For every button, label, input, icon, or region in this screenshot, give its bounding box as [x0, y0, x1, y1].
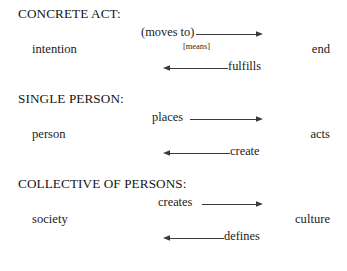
forward-arrow-icon	[0, 196, 347, 212]
forward-relation-row: creates	[0, 196, 347, 212]
forward-arrow-icon	[0, 26, 347, 42]
terms-row: society culture	[0, 212, 347, 230]
right-term: end	[312, 42, 330, 57]
terms-row: intention end	[0, 42, 347, 60]
backward-relation-label: defines	[224, 229, 260, 244]
backward-relation-row: defines	[0, 230, 347, 246]
means-annotation: [means]	[183, 42, 210, 51]
backward-arrow-icon	[0, 230, 347, 246]
backward-arrow-icon	[0, 60, 347, 76]
section-heading: COLLECTIVE OF PERSONS:	[18, 176, 187, 192]
backward-relation-label: fulfills	[228, 59, 261, 74]
backward-relation-label: create	[230, 144, 260, 159]
left-term: intention	[32, 42, 77, 57]
concept-diagram: CONCRETE ACT: (moves to) intention end […	[0, 0, 347, 271]
backward-relation-row: fulfills	[0, 60, 347, 76]
right-term: culture	[295, 212, 330, 227]
left-term: society	[32, 212, 68, 227]
backward-relation-row: create	[0, 145, 347, 161]
forward-relation-row: (moves to)	[0, 26, 347, 42]
terms-row: person acts	[0, 127, 347, 145]
section-heading: CONCRETE ACT:	[18, 6, 121, 22]
forward-relation-row: places	[0, 111, 347, 127]
backward-arrow-icon	[0, 145, 347, 161]
forward-arrow-icon	[0, 111, 347, 127]
right-term: acts	[310, 127, 330, 142]
section-heading: SINGLE PERSON:	[18, 91, 124, 107]
left-term: person	[32, 127, 66, 142]
